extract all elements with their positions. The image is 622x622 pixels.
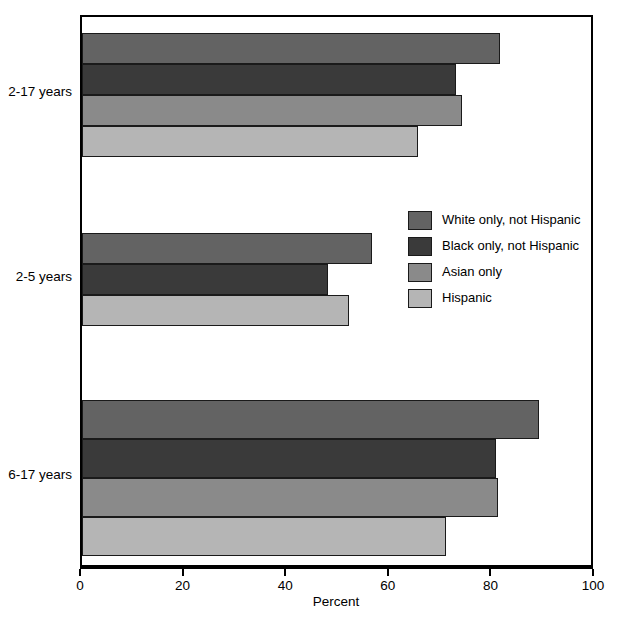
- x-axis-tick-label: 0: [76, 578, 84, 593]
- bar: [82, 95, 462, 126]
- legend-label: Hispanic: [442, 290, 492, 305]
- bar: [82, 64, 456, 95]
- y-axis-label-2: 6-17 years: [0, 467, 72, 482]
- legend-item: Asian only: [408, 262, 588, 286]
- x-axis-tick-label: 100: [582, 578, 605, 593]
- x-axis-tick-label: 40: [278, 578, 293, 593]
- bar: [82, 33, 500, 64]
- legend-swatch-icon: [408, 237, 432, 256]
- x-axis-tick-label: 80: [483, 578, 498, 593]
- bar-chart: 2-17 years2-5 years6-17 years 0204060801…: [0, 0, 622, 622]
- bar: [82, 439, 496, 478]
- y-axis-label-1: 2-5 years: [0, 269, 72, 284]
- legend-label: Black only, not Hispanic: [442, 238, 579, 253]
- bar: [82, 233, 372, 264]
- chart-legend: White only, not HispanicBlack only, not …: [408, 210, 588, 314]
- x-axis-tick: [489, 569, 491, 576]
- x-axis-tick: [79, 569, 81, 576]
- x-axis-tick: [592, 569, 594, 576]
- bar: [82, 295, 349, 326]
- bar: [82, 400, 539, 439]
- x-axis-line: [80, 567, 593, 569]
- bar: [82, 264, 328, 295]
- legend-item: Black only, not Hispanic: [408, 236, 588, 260]
- legend-swatch-icon: [408, 263, 432, 282]
- x-axis-tick-label: 60: [380, 578, 395, 593]
- legend-label: White only, not Hispanic: [442, 212, 581, 227]
- legend-label: Asian only: [442, 264, 502, 279]
- legend-swatch-icon: [408, 289, 432, 308]
- bar: [82, 478, 498, 517]
- y-axis-label-0: 2-17 years: [0, 84, 72, 99]
- x-axis-tick: [284, 569, 286, 576]
- x-axis-title: Percent: [313, 594, 360, 609]
- x-axis-tick: [182, 569, 184, 576]
- legend-item: Hispanic: [408, 288, 588, 312]
- bar: [82, 126, 418, 157]
- bar: [82, 517, 446, 556]
- legend-swatch-icon: [408, 211, 432, 230]
- legend-item: White only, not Hispanic: [408, 210, 588, 234]
- x-axis-tick-label: 20: [175, 578, 190, 593]
- x-axis-tick: [387, 569, 389, 576]
